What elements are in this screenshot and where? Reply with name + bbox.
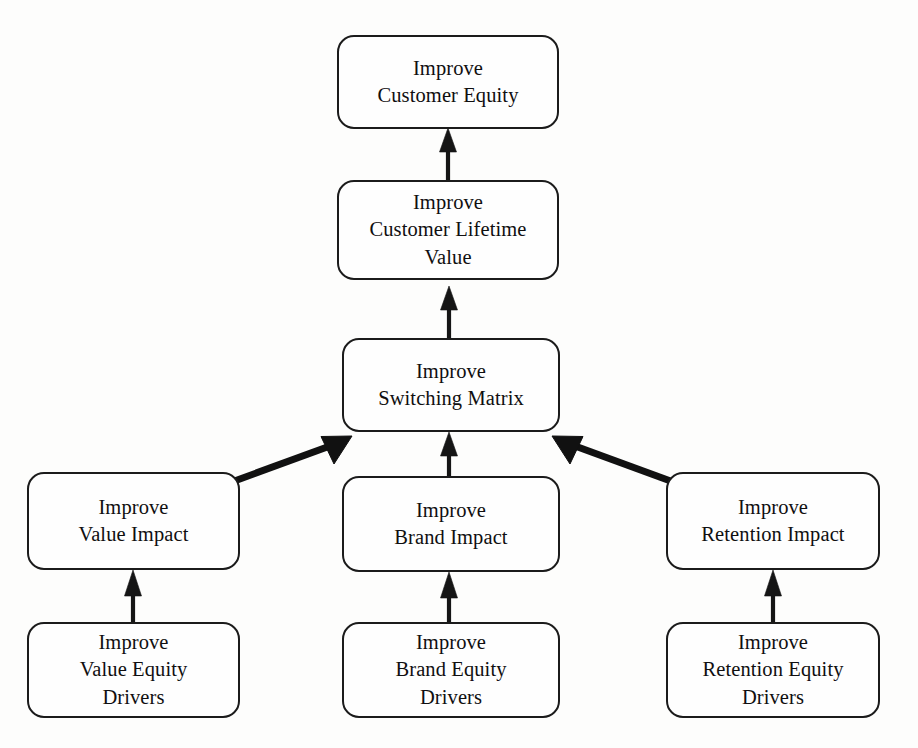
node-brand-impact[interactable]: ImproveBrand Impact: [342, 476, 560, 572]
node-value-equity-drivers[interactable]: ImproveValue EquityDrivers: [27, 622, 240, 718]
node-brand-equity-drivers-label: ImproveBrand EquityDrivers: [389, 629, 512, 710]
node-switching-matrix-label: ImproveSwitching Matrix: [372, 358, 530, 412]
edge-value-impact-to-switching-matrix: [229, 436, 352, 483]
node-value-impact[interactable]: ImproveValue Impact: [27, 472, 240, 570]
edge-value-drivers-to-value-impact: [125, 570, 142, 622]
edge-clv-to-customer-equity: [440, 128, 457, 180]
edge-brand-drivers-to-brand-impact: [441, 572, 458, 622]
diagram-canvas: ImproveCustomer Equity ImproveCustomer L…: [0, 0, 918, 748]
node-customer-equity-label: ImproveCustomer Equity: [371, 55, 524, 109]
edge-retention-impact-to-switching-matrix: [552, 436, 676, 483]
node-value-equity-drivers-label: ImproveValue EquityDrivers: [74, 629, 194, 710]
edge-switching-matrix-to-clv: [441, 286, 458, 338]
node-brand-impact-label: ImproveBrand Impact: [388, 497, 513, 551]
edge-retention-drivers-to-retention-impact: [765, 570, 782, 622]
node-value-impact-label: ImproveValue Impact: [73, 494, 195, 548]
node-customer-lifetime-value[interactable]: ImproveCustomer LifetimeValue: [337, 180, 559, 280]
edge-brand-impact-to-switching-matrix: [441, 432, 458, 476]
node-customer-equity[interactable]: ImproveCustomer Equity: [337, 35, 559, 129]
node-retention-impact[interactable]: ImproveRetention Impact: [666, 472, 880, 570]
node-retention-equity-drivers[interactable]: ImproveRetention EquityDrivers: [666, 622, 880, 718]
node-customer-lifetime-value-label: ImproveCustomer LifetimeValue: [363, 189, 532, 270]
node-switching-matrix[interactable]: ImproveSwitching Matrix: [342, 338, 560, 432]
node-retention-impact-label: ImproveRetention Impact: [695, 494, 850, 548]
node-brand-equity-drivers[interactable]: ImproveBrand EquityDrivers: [342, 622, 560, 718]
node-retention-equity-drivers-label: ImproveRetention EquityDrivers: [696, 629, 849, 710]
